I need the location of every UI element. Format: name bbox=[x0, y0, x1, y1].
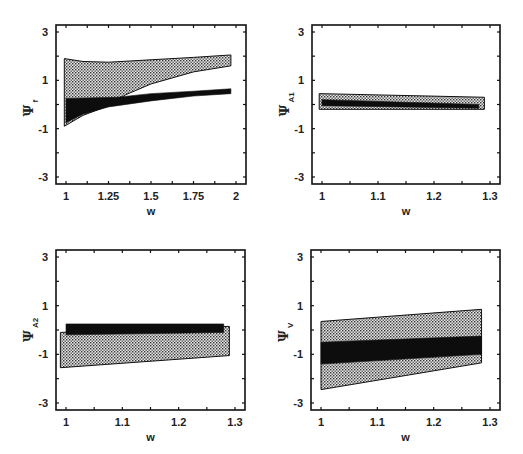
y-tick-label: 3 bbox=[42, 26, 48, 38]
x-axis-label: w bbox=[401, 205, 411, 217]
y-tick-label: -3 bbox=[294, 171, 304, 183]
y-axis-label: Ψf bbox=[21, 100, 40, 117]
panel-psi_V: 11.11.21.331-1-3wΨV bbox=[276, 250, 500, 443]
svg-text:f: f bbox=[31, 100, 40, 103]
x-tick-label: 1.3 bbox=[482, 190, 497, 202]
panel-psi_A2: 11.11.21.331-1-3wΨA2 bbox=[21, 250, 245, 443]
svg-text:Ψ: Ψ bbox=[277, 104, 292, 116]
y-tick-label: 1 bbox=[42, 74, 48, 86]
svg-text:Ψ: Ψ bbox=[276, 330, 291, 342]
x-tick-label: 1 bbox=[63, 416, 69, 428]
x-tick-label: 1 bbox=[63, 190, 69, 202]
y-axis-label: ΨV bbox=[276, 322, 295, 342]
x-axis-label: w bbox=[400, 431, 410, 443]
y-tick-label: 1 bbox=[42, 300, 48, 312]
y-tick-label: -3 bbox=[38, 397, 48, 409]
y-tick-label: 1 bbox=[297, 300, 303, 312]
figure: 11.251.51.75231-1-3wΨf11.11.21.331-1-3wΨ… bbox=[0, 0, 523, 454]
x-tick-label: 1.25 bbox=[98, 190, 119, 202]
y-tick-label: -1 bbox=[38, 348, 48, 360]
x-tick-label: 1.3 bbox=[227, 416, 242, 428]
y-axis-label: ΨA1 bbox=[277, 92, 296, 117]
x-tick-label: 1.5 bbox=[143, 190, 158, 202]
x-axis-label: w bbox=[145, 431, 155, 443]
x-tick-label: 2 bbox=[233, 190, 239, 202]
x-tick-label: 1.1 bbox=[370, 190, 385, 202]
x-tick-label: 1.2 bbox=[426, 416, 441, 428]
x-axis-label: w bbox=[146, 205, 156, 217]
svg-text:Ψ: Ψ bbox=[21, 104, 36, 116]
y-tick-label: 1 bbox=[298, 74, 304, 86]
y-tick-label: -1 bbox=[293, 348, 303, 360]
svg-text:A2: A2 bbox=[31, 317, 40, 328]
x-tick-label: 1.1 bbox=[115, 416, 130, 428]
y-tick-label: -3 bbox=[293, 397, 303, 409]
y-tick-label: 3 bbox=[297, 251, 303, 263]
y-tick-label: 3 bbox=[42, 251, 48, 263]
x-tick-label: 1.2 bbox=[171, 416, 186, 428]
y-tick-label: -1 bbox=[294, 123, 304, 135]
x-tick-label: 1.3 bbox=[482, 416, 497, 428]
x-tick-label: 1 bbox=[319, 190, 325, 202]
y-axis-label: ΨA2 bbox=[21, 317, 40, 342]
svg-text:Ψ: Ψ bbox=[21, 330, 36, 342]
panel-psi_f: 11.251.51.75231-1-3wΨf bbox=[21, 25, 246, 217]
y-tick-label: -1 bbox=[38, 123, 48, 135]
x-tick-label: 1.2 bbox=[426, 190, 441, 202]
panel-psi_A1: 11.11.21.331-1-3wΨA1 bbox=[277, 25, 500, 217]
y-tick-label: -3 bbox=[38, 171, 48, 183]
svg-text:V: V bbox=[286, 322, 295, 328]
svg-text:A1: A1 bbox=[287, 92, 296, 103]
x-tick-label: 1.75 bbox=[183, 190, 204, 202]
x-tick-label: 1 bbox=[318, 416, 324, 428]
y-tick-label: 3 bbox=[298, 26, 304, 38]
x-tick-label: 1.1 bbox=[370, 416, 385, 428]
